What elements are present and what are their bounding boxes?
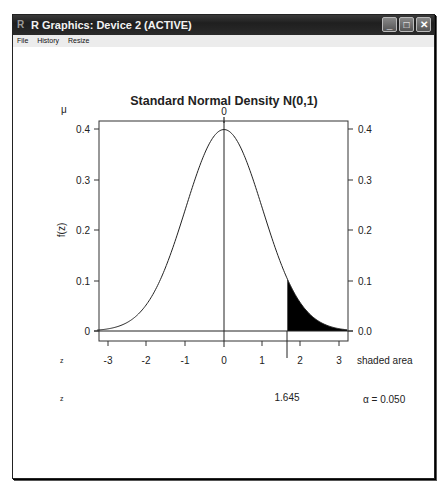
alpha-label: α = 0.050: [363, 394, 406, 405]
xtick-label: 0: [221, 355, 227, 366]
left-ytick-label: 0: [84, 326, 90, 337]
title-bar[interactable]: R R Graphics: Device 2 (ACTIVE) _ □ ✕: [13, 15, 434, 35]
xtick-label: 1: [259, 355, 265, 366]
normal-density-chart: Standard Normal Density N(0,1) μ 0: [13, 47, 434, 478]
xtick-label: 2: [297, 355, 303, 366]
y-axis-title: f(z): [56, 223, 67, 237]
r-graphics-window: R R Graphics: Device 2 (ACTIVE) _ □ ✕ Fi…: [12, 14, 435, 479]
z-row-label: z: [60, 357, 64, 364]
right-ytick-label: 0.0: [358, 326, 372, 337]
menu-history[interactable]: History: [33, 35, 62, 47]
density-curve: [97, 130, 347, 331]
left-ytick-label: 0.3: [76, 175, 90, 186]
right-ytick-label: 0.1: [358, 276, 372, 287]
left-ytick-label: 0.4: [76, 124, 90, 135]
plot-canvas: Standard Normal Density N(0,1) μ 0: [13, 47, 434, 478]
critical-value-label: 1.645: [274, 392, 299, 403]
shaded-tail-area: [287, 279, 347, 331]
maximize-button[interactable]: □: [399, 17, 414, 32]
window-title: R Graphics: Device 2 (ACTIVE): [31, 15, 192, 35]
menu-file[interactable]: File: [13, 35, 31, 47]
shaded-area-label: shaded area: [357, 355, 413, 366]
minimize-button[interactable]: _: [382, 17, 397, 32]
r-app-icon: R: [17, 19, 27, 30]
right-ytick-label: 0.4: [358, 124, 372, 135]
right-ytick-label: 0.3: [358, 175, 372, 186]
xtick-label: -2: [142, 355, 151, 366]
right-ytick-label: 0.2: [358, 225, 372, 236]
window-controls: _ □ ✕: [382, 17, 431, 32]
xtick-label: -1: [181, 355, 190, 366]
mu-label: μ: [61, 104, 67, 115]
z-row-label: z: [60, 395, 64, 402]
left-ytick-label: 0.2: [76, 225, 90, 236]
left-ytick-label: 0.1: [76, 276, 90, 287]
menu-bar: File History Resize: [13, 35, 434, 47]
top-axis-tick-label: 0: [221, 106, 227, 117]
xtick-label: 3: [336, 355, 342, 366]
menu-resize[interactable]: Resize: [64, 35, 92, 47]
xtick-label: -3: [104, 355, 113, 366]
close-button[interactable]: ✕: [416, 17, 431, 32]
